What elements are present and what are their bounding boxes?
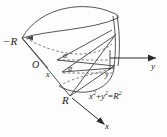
label-axis-y: y xyxy=(151,62,155,71)
upper-plane-ruling xyxy=(57,60,115,66)
label-negative-radius: −R xyxy=(3,36,17,47)
label-angle-alpha-lower: α xyxy=(68,65,72,73)
label-angle-alpha-upper: α xyxy=(63,52,67,60)
equation-r-exponent: 2 xyxy=(119,90,122,96)
label-radius: R xyxy=(62,95,69,106)
label-circle-equation: x2+y2=R2 xyxy=(89,90,122,101)
label-tick-x: x xyxy=(46,71,50,79)
top-cut-upper-arc xyxy=(22,7,113,38)
solid-edges-group xyxy=(22,7,156,124)
cylindrical-wedge-figure: −R O R y x x y α α x2+y2=R2 xyxy=(0,0,167,137)
figure-drawing xyxy=(0,0,167,137)
label-origin: O xyxy=(32,60,39,70)
label-axis-x: x xyxy=(105,122,109,131)
label-tick-y: y xyxy=(105,71,109,79)
